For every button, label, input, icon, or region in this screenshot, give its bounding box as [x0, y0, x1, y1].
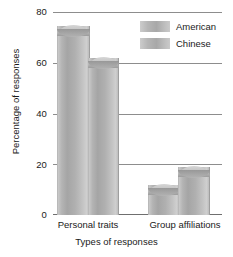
bar-chinese-personal-traits	[88, 58, 119, 215]
y-tick-60: 60	[0, 57, 47, 68]
y-axis-label: Percentage of responses	[10, 27, 21, 177]
bar-cap-icon	[88, 57, 119, 68]
bar-cap-icon	[148, 184, 180, 195]
x-category-group-affiliations: Group affiliations	[137, 219, 233, 230]
legend-label-american: American	[176, 21, 216, 32]
bar-chart: 80 60 40 20 0 Percentage of responses	[0, 0, 233, 257]
legend-item-american: American	[140, 20, 216, 33]
legend-swatch-icon	[140, 21, 170, 32]
x-axis-label: Types of responses	[0, 236, 233, 247]
bar-cap-icon	[178, 166, 210, 177]
x-category-personal-traits: Personal traits	[50, 219, 126, 230]
bar-american-group-affiliations	[148, 185, 180, 215]
bar-american-personal-traits	[57, 26, 90, 215]
y-tick-40: 40	[0, 108, 47, 119]
bar-cap-icon	[57, 25, 90, 36]
y-tick-20: 20	[0, 159, 47, 170]
gridline-80	[53, 12, 222, 13]
legend-item-chinese: Chinese	[140, 37, 216, 50]
y-tick-80: 80	[0, 6, 47, 17]
y-axis-tick-labels: 80 60 40 20 0	[0, 0, 51, 257]
bar-chinese-group-affiliations	[178, 167, 210, 215]
legend: American Chinese	[140, 20, 216, 54]
legend-label-chinese: Chinese	[176, 38, 211, 49]
y-tick-0: 0	[0, 209, 47, 220]
legend-swatch-icon	[140, 38, 170, 49]
